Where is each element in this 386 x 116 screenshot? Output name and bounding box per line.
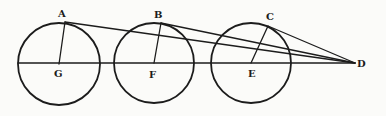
label-g: G: [54, 68, 63, 79]
segment-a-d: [65, 22, 355, 63]
label-f: F: [149, 69, 156, 80]
segment-b-d: [161, 23, 355, 63]
label-c: C: [266, 11, 274, 22]
segment-g-a: [59, 22, 65, 64]
segment-f-b: [154, 23, 161, 63]
label-e: E: [248, 68, 256, 79]
label-d: D: [357, 58, 366, 69]
figure-svg: A B C D E F G: [0, 0, 386, 116]
label-b: B: [154, 9, 162, 20]
label-a: A: [57, 8, 66, 19]
geometry-figure: A B C D E F G: [0, 0, 386, 116]
